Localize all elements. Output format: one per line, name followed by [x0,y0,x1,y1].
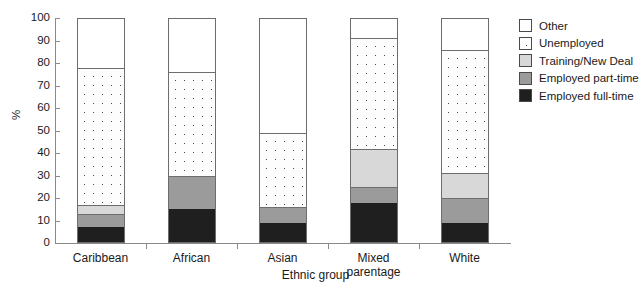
bar-african [168,18,216,243]
x-axis-title: Ethnic group [0,268,631,282]
y-tick-label: 60 [37,102,50,114]
legend-item: Employed full-time [519,87,631,105]
legend-swatch-icon [519,72,532,85]
bar-mixed-parentage [350,18,398,243]
bar-segment-parttime [168,176,216,210]
legend-label: Employed part-time [539,72,639,84]
plot-area [55,18,510,243]
bar-segment-fulltime [168,209,216,243]
x-category-label: White [410,252,520,266]
bar-asian [259,18,307,243]
bar-segment-parttime [77,214,125,228]
bar-segment-training [77,205,125,214]
bar-segment-unemployed [168,72,216,176]
bar-segment-fulltime [259,223,307,243]
legend-label: Other [539,20,568,32]
bar-segment-other [259,18,307,133]
bar-segment-other [77,18,125,68]
y-tick-label: 20 [37,192,50,204]
bar-segment-unemployed [259,133,307,207]
bar-segment-fulltime [350,203,398,244]
bar-segment-unemployed [441,50,489,174]
bar-segment-parttime [441,198,489,223]
bar-white [441,18,489,243]
legend-item: Other [519,17,631,35]
y-tick-label: 70 [37,80,50,92]
y-axis-title: % [10,110,22,120]
bar-segment-fulltime [77,227,125,243]
legend-label: Employed full-time [539,90,634,102]
bar-segment-other [350,18,398,38]
bar-segment-parttime [350,187,398,203]
x-axis-ticks [55,244,511,250]
legend-swatch-icon [519,37,532,50]
x-tick-mark [237,244,238,249]
legend-swatch-icon [519,54,532,67]
legend-label: Training/New Deal [539,55,633,67]
y-tick-label: 10 [37,215,50,227]
bar-caribbean [77,18,125,243]
y-tick-label: 90 [37,35,50,47]
y-axis-labels: 0102030405060708090100 [0,18,50,244]
bar-segment-unemployed [350,38,398,148]
legend-label: Unemployed [539,37,604,49]
legend-item: Employed part-time [519,70,631,88]
bar-segment-unemployed [77,68,125,205]
x-tick-mark [419,244,420,249]
bar-segment-fulltime [441,223,489,243]
x-tick-mark [328,244,329,249]
legend-item: Training/New Deal [519,52,631,70]
y-tick-label: 40 [37,147,50,159]
legend-swatch-icon [519,19,532,32]
bar-segment-training [441,173,489,198]
legend-item: Unemployed [519,35,631,53]
y-tick-label: 100 [31,12,50,24]
bar-segment-other [168,18,216,72]
y-tick-label: 30 [37,170,50,182]
bar-segment-parttime [259,207,307,223]
legend-swatch-icon [519,89,532,102]
chart-title-clipped [0,0,631,3]
y-tick-label: 80 [37,57,50,69]
bar-segment-training [350,149,398,187]
x-tick-mark [146,244,147,249]
y-tick-label: 0 [44,237,50,249]
bar-segment-other [441,18,489,50]
chart-legend: OtherUnemployedTraining/New DealEmployed… [519,17,631,105]
y-tick-label: 50 [37,125,50,137]
